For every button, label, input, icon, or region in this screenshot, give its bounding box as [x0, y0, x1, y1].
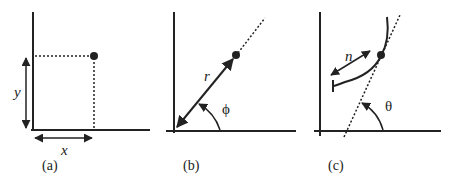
point [232, 51, 240, 59]
coordinate-diagram: y x (a) r ϕ (b) n θ (c) [0, 0, 453, 181]
phi-arc [199, 104, 220, 130]
caption-c: (c) [328, 158, 344, 174]
tangent-line [344, 15, 400, 137]
panel-b: r ϕ (b) [166, 12, 296, 174]
point [377, 51, 385, 59]
caption-b: (b) [183, 158, 200, 174]
caption-a: (a) [42, 158, 58, 174]
panel-c: n θ (c) [314, 12, 441, 174]
point [90, 52, 98, 60]
x-label: x [60, 142, 68, 158]
y-label: y [12, 84, 21, 100]
r-label: r [204, 68, 210, 84]
ray-extension [238, 18, 265, 53]
panel-a: y x (a) [12, 12, 150, 174]
theta-label: θ [385, 98, 392, 114]
phi-label: ϕ [222, 101, 230, 117]
n-label: n [345, 48, 353, 64]
theta-arc [362, 103, 383, 130]
